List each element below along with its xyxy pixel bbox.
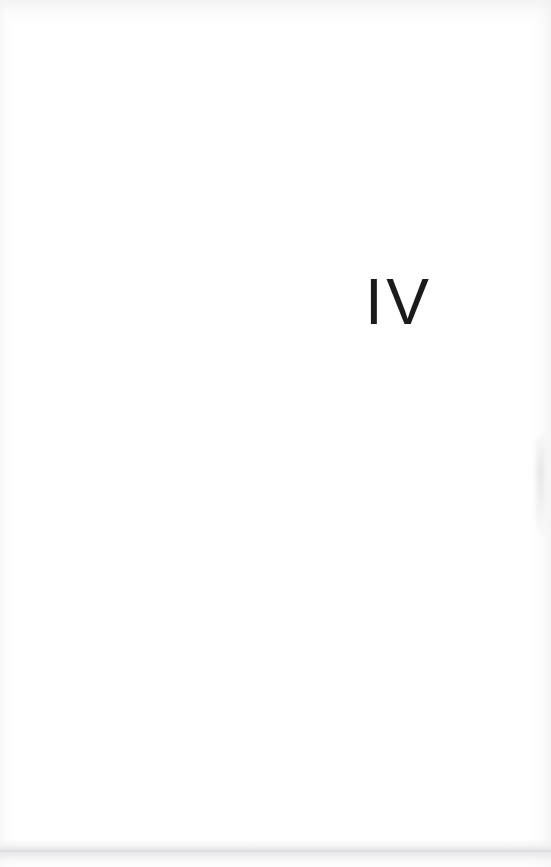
part-divider-page: IV [0, 0, 551, 867]
part-numeral-container: IV [0, 0, 551, 867]
part-numeral: IV [365, 270, 433, 334]
